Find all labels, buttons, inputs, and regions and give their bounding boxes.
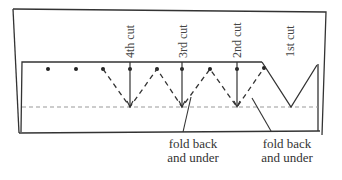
label-3rd-cut: 3rd cut — [176, 24, 191, 58]
outer-sheet-left — [13, 9, 19, 133]
label-4th-cut: 4th cut — [123, 25, 138, 58]
fold-label-1: fold back and under — [158, 137, 228, 165]
bottom-edge — [19, 131, 320, 133]
fold-label-2: fold back and under — [252, 137, 322, 165]
label-1st-cut: 1st cut — [283, 25, 298, 57]
solid-zigzag — [262, 62, 317, 107]
label-2nd-cut: 2nd cut — [230, 22, 245, 58]
fold-pointer-2 — [252, 98, 271, 131]
outer-sheet — [13, 9, 326, 135]
inner-strip — [21, 62, 262, 132]
